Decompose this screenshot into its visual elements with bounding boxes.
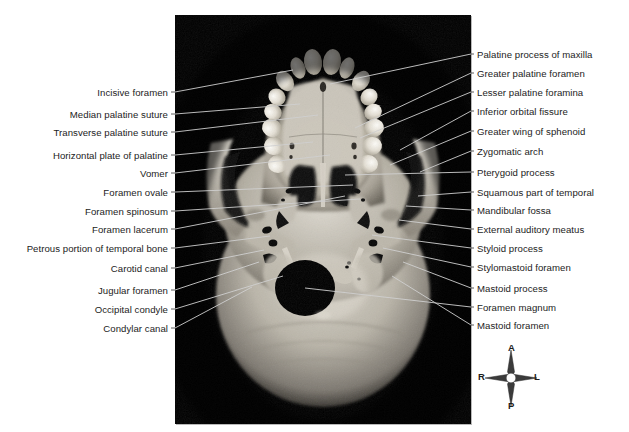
annotation-label: Squamous part of temporal xyxy=(477,187,594,198)
annotation-label: Carotid canal xyxy=(111,263,168,274)
annotation-label: Stylomastoid foramen xyxy=(477,262,571,273)
annotation-label: Styloid process xyxy=(477,243,543,254)
annotation-label: Pterygoid process xyxy=(477,167,555,178)
annotation-label: Inferior orbital fissure xyxy=(477,106,568,117)
compass-label-posterior: P xyxy=(508,400,514,411)
annotation-label: Zygomatic arch xyxy=(477,146,543,157)
skull-photo-panel xyxy=(175,15,471,424)
annotation-label: Foramen ovale xyxy=(103,187,168,198)
compass-label-anterior: A xyxy=(508,342,515,353)
annotation-label: Foramen lacerum xyxy=(92,224,168,235)
annotation-label: Transverse palatine suture xyxy=(53,127,168,138)
annotation-label: Occipital condyle xyxy=(95,304,168,315)
skull-inferior-view-image xyxy=(175,15,471,424)
compass-label-right: R xyxy=(478,371,485,382)
annotation-label: Mandibular fossa xyxy=(477,205,551,216)
annotation-label: Mastoid foramen xyxy=(477,320,549,331)
orientation-compass: A P R L xyxy=(478,342,544,414)
annotation-label: Jugular foramen xyxy=(98,285,168,296)
annotation-label: Greater wing of sphenoid xyxy=(477,126,585,137)
skull-photo xyxy=(175,15,471,424)
annotation-label: External auditory meatus xyxy=(477,224,584,235)
annotation-label: Greater palatine foramen xyxy=(477,68,585,79)
annotation-label: Mastoid process xyxy=(477,283,548,294)
annotation-label: Petrous portion of temporal bone xyxy=(27,243,168,254)
compass-label-left: L xyxy=(534,371,540,382)
annotation-label: Median palatine suture xyxy=(70,109,168,120)
annotation-label: Incisive foramen xyxy=(97,87,168,98)
annotation-label: Condylar canal xyxy=(103,323,168,334)
annotation-label: Foramen spinosum xyxy=(85,206,168,217)
anatomical-figure: Incisive foramenMedian palatine sutureTr… xyxy=(0,0,629,432)
annotation-label: Lesser palatine foramina xyxy=(477,87,583,98)
annotation-label: Palatine process of maxilla xyxy=(477,49,592,60)
annotation-label: Foramen magnum xyxy=(477,302,556,313)
annotation-label: Vomer xyxy=(140,168,168,179)
annotation-label: Horizontal plate of palatine xyxy=(53,150,168,161)
